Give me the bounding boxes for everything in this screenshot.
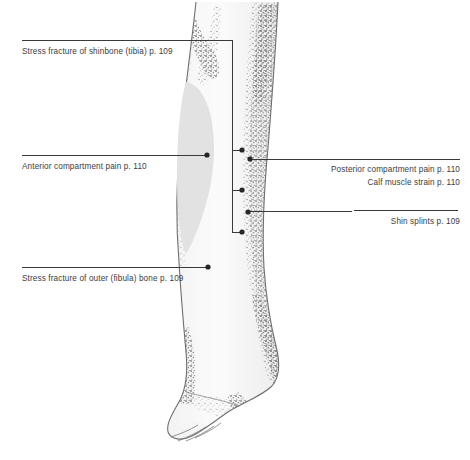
leg-illustration-and-leaders [0, 0, 470, 460]
marker-tibia-stress-fracture [239, 147, 244, 152]
lower-leg-drawing [166, 2, 286, 443]
label-calf-muscle-strain: Calf muscle strain p. 110 [313, 177, 460, 188]
label-stress-fracture-tibia: Stress fracture of shinbone (tibia) p. 1… [22, 46, 173, 57]
anatomy-figure: Stress fracture of shinbone (tibia) p. 1… [0, 0, 470, 460]
marker-calf-muscle-strain [239, 187, 244, 192]
label-shin-splints: Shin splints p. 109 [313, 216, 460, 227]
marker-bracket-foot [239, 229, 244, 234]
label-anterior-compartment-pain: Anterior compartment pain p. 110 [22, 161, 147, 172]
label-stress-fracture-fibula: Stress fracture of outer (fibula) bone p… [22, 273, 184, 284]
marker-fibula-stress-fracture [205, 264, 210, 269]
marker-anterior-compartment [204, 152, 209, 157]
leader-shin-splints [248, 210, 460, 212]
marker-shin-splints [245, 209, 250, 214]
marker-posterior-compartment [247, 156, 252, 161]
label-posterior-compartment-pain: Posterior compartment pain p. 110 [313, 164, 460, 175]
